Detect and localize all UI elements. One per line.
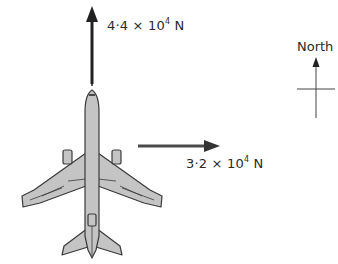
east-force-unit: N [249, 156, 263, 171]
north-force-mantissa: 4·4 [107, 18, 128, 33]
compass-north-label: North [297, 39, 333, 54]
east-force-arrow [138, 140, 220, 152]
north-force-arrow [86, 6, 98, 84]
north-force-label: 4·4 × 104 N [107, 18, 185, 33]
airplane-icon [22, 82, 162, 258]
compass-icon [297, 57, 335, 118]
east-force-times: × 10 [207, 156, 244, 171]
diagram-canvas [0, 0, 338, 264]
north-force-times: × 10 [128, 18, 165, 33]
east-force-mantissa: 3·2 [186, 156, 207, 171]
east-force-exponent: 4 [244, 155, 249, 164]
north-force-unit: N [170, 18, 184, 33]
north-force-exponent: 4 [165, 17, 170, 26]
east-force-label: 3·2 × 104 N [186, 156, 264, 171]
